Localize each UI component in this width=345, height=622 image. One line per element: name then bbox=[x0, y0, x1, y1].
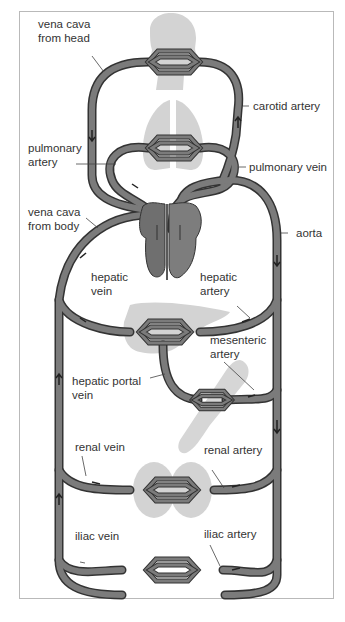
label-mesenteric-artery: mesenteric artery bbox=[210, 333, 266, 361]
label-aorta: aorta bbox=[296, 226, 322, 240]
label-hepatic-vein: hepatic vein bbox=[91, 270, 128, 298]
label-renal-artery: renal artery bbox=[204, 443, 262, 457]
label-renal-vein: renal vein bbox=[75, 440, 125, 454]
label-iliac-vein: iliac vein bbox=[75, 529, 119, 543]
label-iliac-artery: iliac artery bbox=[204, 527, 256, 541]
label-vena-cava-from-body: vena cava from body bbox=[28, 205, 80, 233]
leg-capillaries bbox=[146, 559, 198, 581]
lung-capillaries bbox=[148, 137, 200, 159]
heart bbox=[140, 203, 202, 280]
label-vena-cava-from-head: vena cava from head bbox=[38, 17, 90, 45]
circulatory-diagram bbox=[0, 0, 345, 622]
label-pulmonary-vein: pulmonary vein bbox=[249, 160, 327, 174]
label-hepatic-artery: hepatic artery bbox=[200, 270, 237, 298]
label-pulmonary-artery: pulmonary artery bbox=[28, 141, 82, 169]
label-hepatic-portal-vein: hepatic portal vein bbox=[72, 374, 141, 402]
label-carotid-artery: carotid artery bbox=[253, 99, 320, 113]
gut-silhouette bbox=[178, 360, 248, 453]
